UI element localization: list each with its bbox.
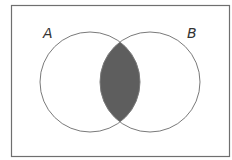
set-a-label: A <box>42 25 53 41</box>
set-b-label: B <box>187 25 197 41</box>
venn-diagram: A B <box>0 0 232 160</box>
